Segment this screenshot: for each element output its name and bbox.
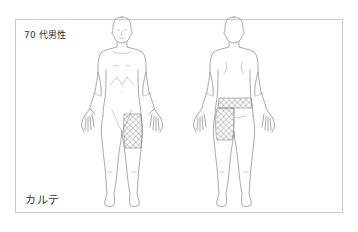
back-body-figure: [194, 17, 275, 207]
front-torso: [84, 42, 160, 117]
front-left-thigh-highlight: [124, 114, 142, 148]
back-lower-back-highlight: [218, 98, 252, 108]
front-right-hand: [82, 109, 95, 132]
body-diagrams: [0, 0, 358, 232]
front-left-hand: [149, 109, 162, 132]
back-left-thigh-highlight: [216, 108, 235, 140]
back-head: [224, 17, 244, 43]
front-body-figure: [82, 17, 163, 207]
back-right-hand: [194, 114, 206, 132]
back-left-hand: [262, 114, 274, 132]
front-head: [112, 17, 132, 43]
